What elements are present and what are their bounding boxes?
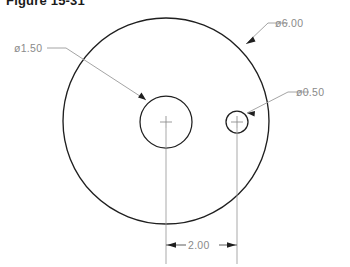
small-hole-dimension-label: ø0.50 bbox=[296, 86, 324, 98]
outer-circle-leader-arrowhead bbox=[246, 37, 256, 45]
dimension-arrowhead-right bbox=[227, 242, 236, 247]
engineering-drawing-page: Figure 15-31 ø1.50 ø6.00 bbox=[0, 0, 350, 267]
hole-spacing-dimension-label: 2.00 bbox=[188, 239, 210, 251]
small-hole-center-mark bbox=[231, 116, 243, 128]
small-hole-leader-arrowhead bbox=[247, 111, 255, 117]
center-hole-leader-arrowhead bbox=[138, 93, 146, 101]
dimension-arrowhead-left bbox=[167, 242, 176, 247]
drawing-canvas: ø1.50 ø6.00 ø0.50 2.00 bbox=[0, 0, 350, 267]
center-hole-leader bbox=[47, 48, 146, 100]
center-hole-center-mark bbox=[160, 116, 172, 128]
center-hole-dimension-label: ø1.50 bbox=[14, 42, 42, 54]
outer-circle-dimension-label: ø6.00 bbox=[275, 17, 303, 29]
